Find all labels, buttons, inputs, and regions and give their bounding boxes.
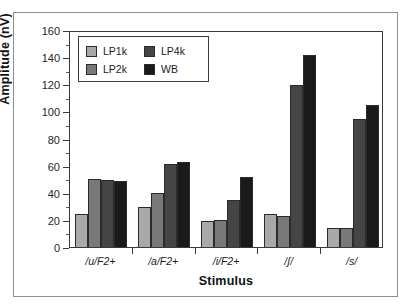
y-tick-label: 40 [48, 188, 60, 200]
x-tick [257, 248, 258, 254]
bar-lp2k-3 [277, 216, 290, 247]
y-axis: 020406080100120140160 [0, 0, 69, 308]
chart-legend: LP1k LP4k LP2k WB [78, 36, 209, 82]
bar-lp4k-0 [101, 180, 114, 247]
bar-wb-0 [114, 181, 127, 247]
x-tick-label: /s/ [346, 255, 357, 267]
bar-wb-4 [366, 105, 379, 247]
legend-row: LP1k LP4k [86, 42, 202, 60]
x-tick-label: /u/F2+ [85, 255, 115, 267]
bar-lp1k-2 [201, 221, 214, 247]
bar-group [264, 32, 316, 247]
bar-lp4k-3 [290, 85, 303, 247]
y-tick-label: 100 [42, 106, 60, 118]
bar-lp2k-2 [214, 220, 227, 247]
x-axis: /u/F2+/a/F2+/i/F2+/ʃ//s/ [69, 248, 383, 262]
x-tick-label: /i/F2+ [213, 255, 240, 267]
legend-entry-wb: WB [144, 63, 202, 75]
y-tick-label: 20 [48, 215, 60, 227]
x-tick-label: /ʃ/ [284, 255, 293, 267]
y-tick-label: 160 [42, 25, 60, 37]
y-tick-label: 140 [42, 52, 60, 64]
legend-swatch-wb [144, 64, 155, 75]
legend-label-wb: WB [161, 63, 178, 75]
legend-swatch-lp4k [144, 46, 155, 57]
x-tick [132, 248, 133, 254]
legend-swatch-lp2k [86, 64, 97, 75]
legend-label-lp4k: LP4k [161, 45, 185, 57]
legend-label-lp2k: LP2k [103, 63, 127, 75]
bar-wb-3 [303, 55, 316, 247]
bar-group [327, 32, 379, 247]
legend-label-lp1k: LP1k [103, 45, 127, 57]
x-tick [195, 248, 196, 254]
bar-lp2k-4 [340, 228, 353, 247]
y-tick-label: 120 [42, 79, 60, 91]
bar-lp4k-1 [164, 164, 177, 247]
legend-swatch-lp1k [86, 46, 97, 57]
bar-wb-1 [177, 162, 190, 247]
bar-chart-figure: Amplitude (nV) 020406080100120140160 LP1… [0, 0, 411, 308]
legend-row: LP2k WB [86, 60, 202, 78]
bar-lp1k-1 [138, 207, 151, 247]
bar-lp1k-0 [75, 214, 88, 247]
bar-lp2k-1 [151, 193, 164, 247]
bar-lp2k-0 [88, 179, 101, 247]
bar-lp4k-4 [353, 119, 366, 247]
y-tick-label: 60 [48, 161, 60, 173]
y-tick-label: 0 [54, 242, 60, 254]
legend-entry-lp2k: LP2k [86, 63, 144, 75]
x-tick [320, 248, 321, 254]
legend-entry-lp4k: LP4k [144, 45, 202, 57]
y-tick-label: 80 [48, 134, 60, 146]
bar-wb-2 [240, 177, 253, 247]
bar-lp1k-4 [327, 228, 340, 247]
x-tick-label: /a/F2+ [148, 255, 178, 267]
x-axis-title: Stimulus [69, 274, 383, 288]
bar-lp1k-3 [264, 214, 277, 247]
legend-entry-lp1k: LP1k [86, 45, 144, 57]
bar-lp4k-2 [227, 200, 240, 247]
